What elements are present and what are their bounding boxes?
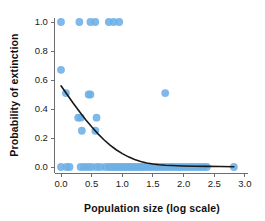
data-point bbox=[87, 91, 95, 99]
scatter-chart: 0.00.20.40.60.81.0 0.00.51.01.52.02.53.0… bbox=[0, 0, 265, 221]
data-point bbox=[93, 114, 101, 122]
y-tick-label: 1.0 bbox=[35, 16, 48, 27]
y-tick-label: 0.8 bbox=[35, 45, 48, 56]
x-tick-label: 0.5 bbox=[85, 178, 98, 189]
data-points-layer bbox=[57, 18, 238, 171]
y-tick-label: 0.0 bbox=[35, 161, 48, 172]
data-point bbox=[75, 18, 83, 26]
data-point bbox=[161, 89, 169, 97]
data-point bbox=[78, 127, 86, 135]
y-tick-label: 0.6 bbox=[35, 74, 48, 85]
x-tick-label: 2.5 bbox=[208, 178, 221, 189]
data-point bbox=[66, 163, 74, 171]
data-point bbox=[115, 18, 123, 26]
y-tick-label: 0.4 bbox=[35, 103, 48, 114]
data-point bbox=[91, 18, 99, 26]
y-axis: 0.00.20.40.60.81.0 bbox=[35, 16, 55, 173]
x-tick-label: 2.0 bbox=[177, 178, 190, 189]
y-axis-title: Probability of extinction bbox=[8, 33, 20, 156]
data-point bbox=[57, 66, 65, 74]
x-tick-label: 1.5 bbox=[146, 178, 159, 189]
y-tick-group: 0.00.20.40.60.81.0 bbox=[35, 16, 55, 172]
x-tick-label: 3.0 bbox=[238, 178, 251, 189]
x-tick-label: 0.0 bbox=[54, 178, 67, 189]
data-point bbox=[57, 18, 65, 26]
x-axis: 0.00.51.01.52.02.53.0 bbox=[54, 173, 251, 189]
chart-canvas: 0.00.20.40.60.81.0 0.00.51.01.52.02.53.0… bbox=[0, 0, 265, 221]
x-tick-label: 1.0 bbox=[116, 178, 129, 189]
y-tick-label: 0.2 bbox=[35, 132, 48, 143]
x-tick-group: 0.00.51.01.52.02.53.0 bbox=[54, 173, 251, 189]
x-axis-title: Population size (log scale) bbox=[84, 202, 220, 214]
